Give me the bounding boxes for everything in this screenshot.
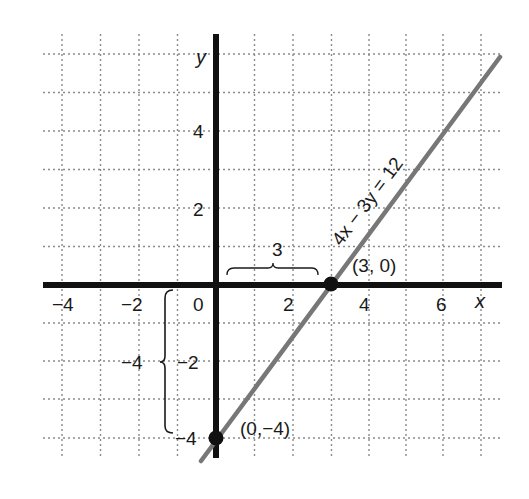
x-tick-label: 0 (193, 294, 204, 315)
y-axis-label: y (194, 46, 207, 68)
x-tick-label: −4 (52, 294, 74, 315)
x-tick-label: 2 (283, 294, 294, 315)
y-tick-label: 2 (193, 199, 204, 220)
line-4x-3y-12 (201, 57, 500, 461)
point-label-3-0: (3, 0) (352, 255, 396, 276)
y-tick-label: −2 (177, 352, 199, 373)
x-tick-label: 4 (359, 294, 370, 315)
run-label: 3 (272, 239, 283, 260)
point-0-neg4 (209, 431, 224, 446)
x-tick-label: −2 (121, 294, 143, 315)
y-tick-label: −4 (175, 428, 197, 449)
run-brace (227, 263, 318, 275)
rise-brace (160, 290, 173, 433)
y-tick-label: 4 (193, 121, 204, 142)
x-tick-label: 6 (436, 294, 447, 315)
point-label-0-neg4: (0,−4) (240, 418, 290, 439)
coordinate-plane: y x −4 −2 0 2 4 6 4 2 −2 −4 3 −4 (3, 0) … (0, 0, 529, 499)
x-axis-label: x (474, 290, 486, 312)
rise-label: −4 (121, 352, 143, 373)
point-3-0 (324, 277, 339, 292)
